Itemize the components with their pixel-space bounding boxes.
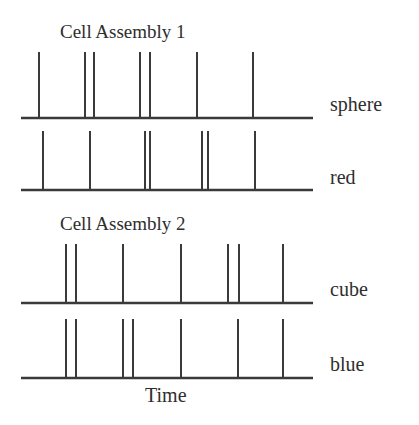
row-label-red: red bbox=[330, 167, 356, 187]
x-axis-label: Time bbox=[145, 385, 187, 405]
spike-raster-figure: Cell Assembly 1 Cell Assembly 2 sphere r… bbox=[0, 0, 419, 425]
assembly-2-title: Cell Assembly 2 bbox=[60, 214, 186, 233]
row-label-blue: blue bbox=[330, 354, 364, 374]
row-label-cube: cube bbox=[330, 279, 368, 299]
row-label-sphere: sphere bbox=[330, 94, 382, 114]
assembly-1-title: Cell Assembly 1 bbox=[60, 22, 186, 41]
